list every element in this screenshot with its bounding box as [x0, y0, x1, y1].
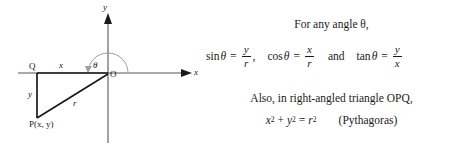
x-axis-label: x: [194, 68, 198, 77]
figure-root: y x O Q x y r θ P(x, y) For any angle θ,…: [0, 0, 457, 159]
sin-fraction: y r: [242, 44, 251, 69]
tan-name: tan: [357, 50, 371, 63]
sin-name: sin: [206, 50, 219, 63]
diagram-svg: [0, 0, 210, 159]
side-label-x: x: [59, 61, 63, 70]
sin-trailing-comma: ,: [253, 50, 256, 63]
side-label-y: y: [28, 90, 32, 99]
segment-PO: [37, 74, 108, 118]
tan-denominator: x: [393, 57, 402, 69]
point-label-p: P(x, y): [29, 120, 54, 129]
cos-fraction: x r: [305, 44, 314, 69]
formula-block: For any angle θ, sin θ = y r , cos θ = x…: [206, 0, 457, 159]
sin-numerator: y: [242, 44, 251, 56]
sin-denominator: r: [242, 57, 250, 69]
intro-text: For any angle θ,: [294, 18, 369, 31]
point-label-q: Q: [29, 62, 36, 71]
y-axis-arrowhead: [104, 13, 112, 24]
pyth-plus: +: [275, 114, 288, 127]
cos-numerator: x: [305, 44, 314, 56]
y-axis-label: y: [103, 3, 107, 12]
angle-arc-arrowhead: [85, 66, 92, 73]
sin-arg: θ: [219, 50, 227, 63]
conjunction-and: and: [328, 50, 345, 63]
sin-equals: =: [227, 50, 240, 63]
tan-arg: θ: [371, 50, 379, 63]
intro-line: For any angle θ,: [206, 18, 457, 31]
x-axis-arrowhead: [181, 69, 192, 77]
point-label-o: O: [110, 70, 117, 79]
pyth-equals: =: [296, 114, 309, 127]
cos-equals: =: [290, 50, 303, 63]
tan-fraction: y x: [393, 44, 402, 69]
pythagoras-line: x2 + y2 = r2 (Pythagoras): [206, 114, 457, 127]
cos-denominator: r: [305, 57, 313, 69]
cos-arg: θ: [283, 50, 291, 63]
also-text: Also, in right-angled triangle OPQ,: [250, 92, 412, 105]
also-line: Also, in right-angled triangle OPQ,: [206, 92, 457, 105]
angle-label-theta: θ: [93, 61, 97, 70]
ratios-line: sin θ = y r , cos θ = x r and tan: [206, 44, 457, 69]
tan-numerator: y: [393, 44, 402, 56]
pythagoras-note: (Pythagoras): [339, 114, 398, 127]
pyth-exp-r: 2: [313, 116, 317, 124]
trig-diagram: y x O Q x y r θ P(x, y): [0, 0, 210, 159]
tan-equals: =: [378, 50, 391, 63]
cos-name: cos: [267, 50, 282, 63]
side-label-r: r: [73, 99, 77, 108]
